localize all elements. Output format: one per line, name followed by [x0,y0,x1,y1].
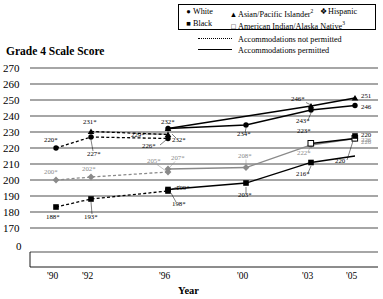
y-tick-180: 180 [3,206,20,218]
label-aian-05: 226 [361,138,372,145]
y-tick-200: 200 [3,174,20,186]
y-tick-230: 230 [3,126,20,138]
label-white-96-np: 226* [142,142,156,149]
series-white: 220* 227* 226* 232* 234* 243* 246 [44,103,372,157]
y-tick-270: 270 [3,62,20,74]
y-tick-210: 210 [3,158,20,170]
x-tick-03: '03 [302,271,313,281]
label-white-96-p: 232* [161,118,175,125]
x-tick-90: '90 [47,271,58,281]
label-white-05: 246 [361,103,372,110]
label-black-05: 220 [335,157,346,164]
label-white-03: 243* [296,117,310,124]
label-white-90: 220* [44,136,58,143]
y-tick-170: 170 [3,222,20,234]
x-axis-label: Year [178,285,199,296]
x-tick-00: '00 [237,271,248,281]
label-api-92: 231* [83,118,97,125]
y-tick-250: 250 [3,94,20,106]
y-tick-zero: 0 [16,240,22,252]
y-axis-ticks: 270 260 250 240 230 220 210 200 190 180 … [3,62,22,252]
x-tick-92: '92 [82,271,93,281]
label-hispanic-00: 208* [238,152,252,159]
label-white-92: 227* [87,150,101,157]
label-aian-03: 223* [297,127,311,134]
y-tick-190: 190 [3,190,20,202]
label-black-90: 188* [46,213,60,220]
label-api-96-np: 229* [131,131,145,138]
label-hispanic-96-np: 205* [147,157,161,164]
label-api-05: 251 [361,92,371,99]
series-black: 188* 193* 198* 199* 203* 216* 220 220 [46,131,372,220]
label-black-92: 193* [84,213,98,220]
x-tick-05: '05 [346,271,357,281]
y-tick-240: 240 [3,110,20,122]
label-black-03: 216* [296,170,310,177]
label-hispanic-96-p: 207* [171,154,185,161]
label-white-00: 234* [237,130,251,137]
label-hispanic-92: 202* [82,165,96,172]
label-black-00: 203* [238,191,252,198]
label-black-96-np: 198* [172,200,186,207]
y-tick-260: 260 [3,78,20,90]
y-tick-220: 220 [3,142,20,154]
label-api-96-p: 232* [172,136,186,143]
x-axis-ticks: '90 '92 '96 '00 '03 '05 [47,271,357,281]
label-hispanic-90: 200* [44,168,58,175]
label-black-96-p: 199* [176,184,190,191]
chart-plot-area: 270 260 250 240 230 220 210 200 190 180 … [0,0,383,299]
label-black-05-end: 220 [361,131,372,138]
label-api-03: 246* [291,95,305,102]
x-tick-96: '96 [159,271,170,281]
